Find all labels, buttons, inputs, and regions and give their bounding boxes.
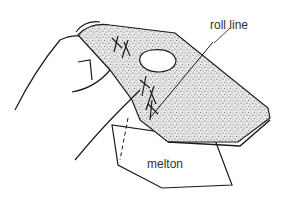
- thumb: [140, 50, 176, 72]
- collar-illustration: [0, 0, 296, 206]
- collar-fabric: [76, 22, 270, 146]
- roll-line-label: roll line: [210, 19, 248, 31]
- melton-label: melton: [147, 158, 183, 170]
